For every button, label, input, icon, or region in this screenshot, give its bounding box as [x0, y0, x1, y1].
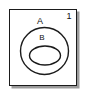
set-a-label: A: [34, 17, 46, 26]
set-ellipses-group: [0, 0, 89, 98]
set-b-label: B: [36, 34, 48, 42]
set-b-ellipse: [30, 46, 61, 65]
universal-set-label: 1: [64, 12, 74, 21]
euler-diagram-figure: 1 A B: [0, 0, 89, 98]
